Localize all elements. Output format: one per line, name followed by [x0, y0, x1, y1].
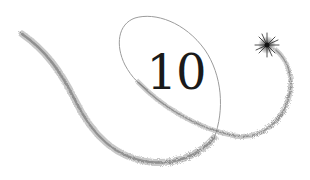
star-icon [255, 33, 279, 57]
chapter-number: 10 [146, 42, 206, 102]
